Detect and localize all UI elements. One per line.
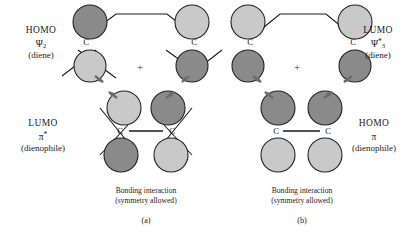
lobe-dark [232, 50, 264, 82]
panel-b-top-label-line3: (diene) [340, 50, 416, 61]
panel-b-top-label-symbol: Ψ [371, 39, 378, 49]
panel-b-top-label-subscript: 3 [382, 42, 385, 49]
panel-a-caption-line1: Bonding interaction [96, 186, 196, 196]
panel-a-bottom-label-line3: (dienophile) [0, 143, 86, 154]
panel-b-interaction-arrows [253, 76, 352, 98]
panel-a-top-label-subscript: 2 [43, 42, 46, 49]
panel-b-top-orbital-label: LUMO Ψ*3 (diene) [340, 25, 416, 61]
panel-b-bottom-label-line3: (dienophile) [332, 143, 416, 154]
panel-b-bottom-label-line1: HOMO [332, 118, 416, 130]
panel-a-bottom-orbital-label: LUMO π* (dienophile) [0, 118, 86, 154]
panel-b-identifier: (b) [272, 216, 332, 225]
panel-b-top-label-line1: LUMO [340, 25, 416, 37]
panel-b-bottom-label-line2: π [332, 130, 416, 144]
lobe-dark [261, 91, 295, 125]
panel-a-bottom-label-line2: π* [0, 130, 86, 144]
figure-canvas: C C C C [0, 0, 416, 232]
panel-b-diene-backbone [258, 14, 348, 32]
panel-a-bottom-label-star: * [44, 130, 48, 139]
svg-text:C: C [273, 126, 279, 136]
panel-b-caption-line2: (symmetry allowed) [252, 196, 352, 206]
lobe-light [261, 138, 295, 172]
svg-text:C: C [247, 37, 253, 47]
panel-b-top-label-line2: Ψ*3 [340, 37, 416, 51]
panel-a-top-label-line2: Ψ2 [2, 37, 80, 51]
svg-text:C: C [325, 126, 331, 136]
panel-a-caption: Bonding interaction (symmetry allowed) [96, 186, 196, 207]
panel-a-top-label-line3: (diene) [2, 50, 80, 61]
panel-b-bottom-label-symbol: π [372, 132, 377, 142]
plus-symbol-panel-a: + [137, 62, 143, 73]
panel-a-caption-line2: (symmetry allowed) [96, 196, 196, 206]
panel-b-caption: Bonding interaction (symmetry allowed) [252, 186, 352, 207]
plus-symbol-panel-b: + [294, 62, 300, 73]
panel-b-bottom-orbital-label: HOMO π (dienophile) [332, 118, 416, 154]
panel-a-top-label-symbol: Ψ [36, 39, 43, 49]
panel-a-top-orbital-label: HOMO Ψ2 (diene) [2, 25, 80, 61]
panel-a-identifier: (a) [116, 216, 176, 225]
panel-a-bottom-label-line1: LUMO [0, 118, 86, 130]
panel-b-caption-line1: Bonding interaction [252, 186, 352, 196]
lobe-light [231, 5, 265, 39]
panel-a-top-label-line1: HOMO [2, 25, 80, 37]
